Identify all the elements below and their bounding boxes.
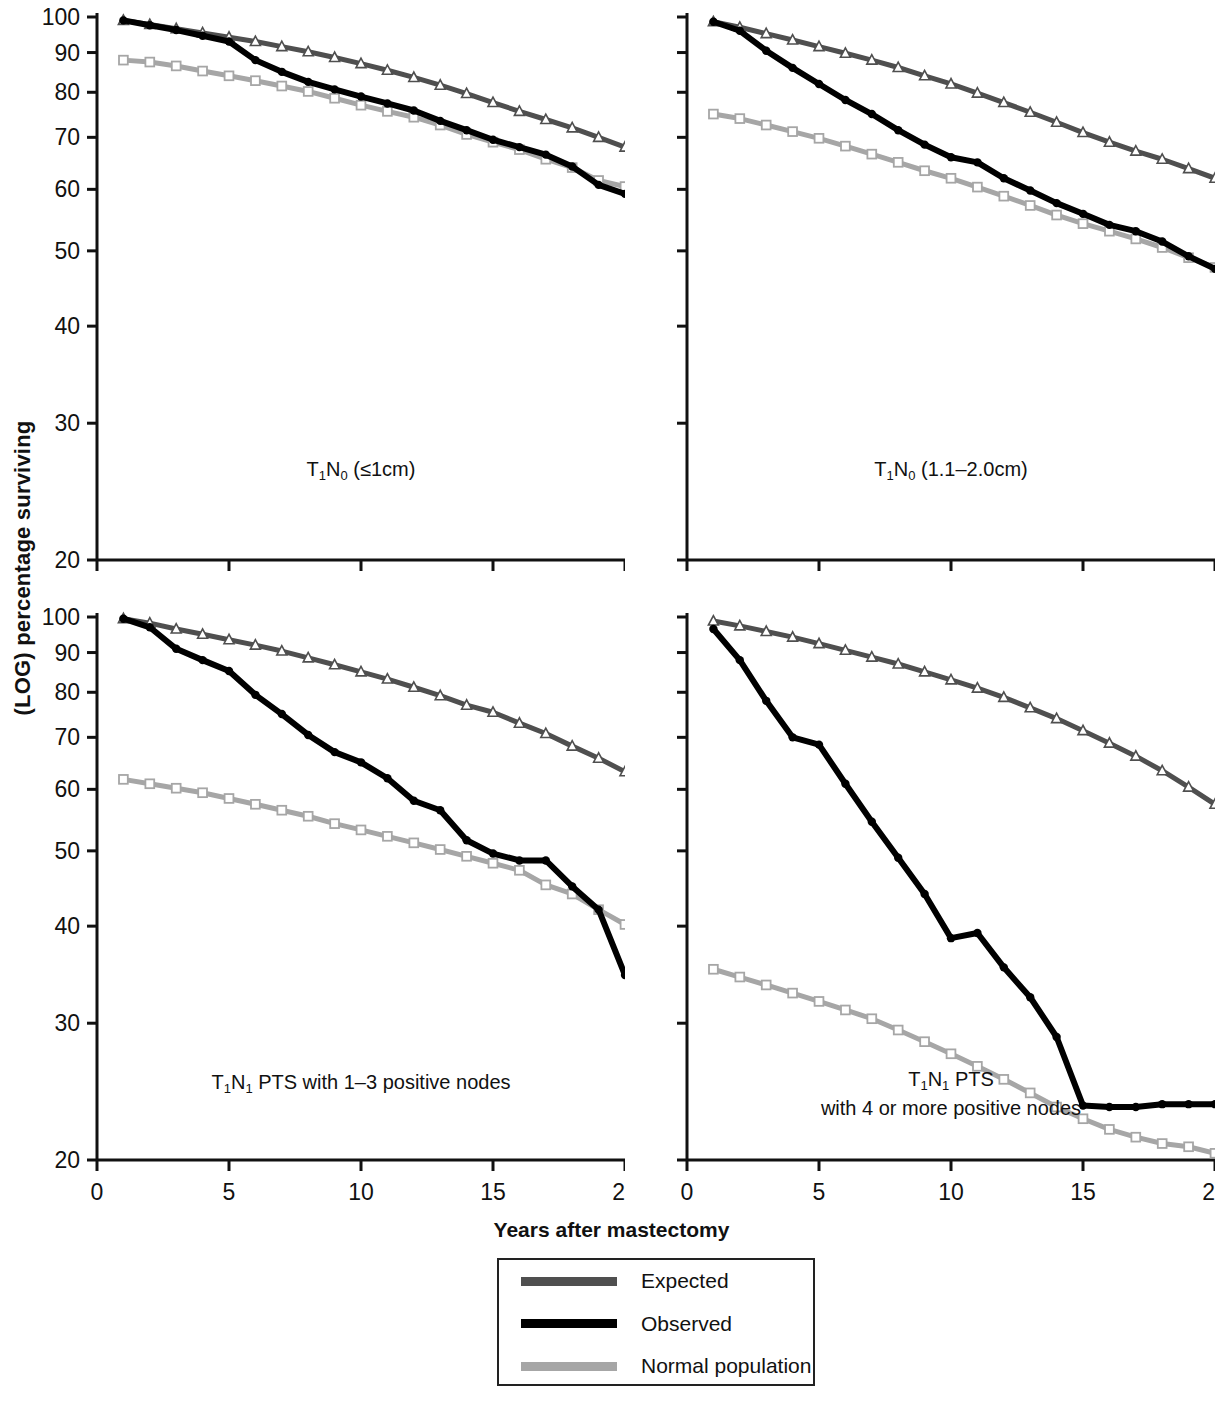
x-tick-label: 15 xyxy=(1070,1179,1096,1200)
x-axis-label: Years after mastectomy xyxy=(0,1218,1223,1242)
x-tick-label: 0 xyxy=(91,1179,104,1200)
panel-bottom-left: 203040506070809010005101520 xyxy=(8,600,625,1200)
panel-top-left: 2030405060708090100 xyxy=(8,0,625,600)
plot-area: 2030405060708090100 xyxy=(8,0,625,600)
y-tick-label: 50 xyxy=(54,238,80,264)
legend-item-expected: Expected xyxy=(499,1260,813,1303)
series-line-normal-population xyxy=(713,114,1215,267)
y-tick-label: 100 xyxy=(42,604,80,630)
y-tick-label: 70 xyxy=(54,724,80,750)
series-markers-observed xyxy=(709,625,1215,1111)
y-tick-label: 30 xyxy=(54,410,80,436)
figure-root: (LOG) percentage surviving Years after m… xyxy=(0,0,1223,1414)
y-tick-label: 30 xyxy=(54,1010,80,1036)
y-tick-label: 50 xyxy=(54,838,80,864)
series-markers-expected xyxy=(118,613,625,776)
legend-label-normal-population: Normal population xyxy=(641,1354,811,1378)
legend-item-normal-population: Normal population xyxy=(499,1345,813,1388)
panel-top-right-title: T1N0 (1.1–2.0cm) xyxy=(657,455,1223,484)
series-markers-expected xyxy=(708,616,1215,809)
series-line-normal-population xyxy=(123,779,625,924)
x-tick-label: 20 xyxy=(1202,1179,1215,1200)
series-markers-normal-population xyxy=(119,775,625,929)
x-tick-label: 0 xyxy=(681,1179,694,1200)
series-line-expected xyxy=(123,20,625,147)
series-line-expected xyxy=(713,621,1215,804)
y-tick-label: 90 xyxy=(54,40,80,66)
x-tick-label: 5 xyxy=(813,1179,826,1200)
y-tick-label: 20 xyxy=(54,547,80,573)
legend-item-observed: Observed xyxy=(499,1303,813,1346)
y-tick-label: 60 xyxy=(54,776,80,802)
plot-area xyxy=(598,0,1215,600)
y-tick-label: 100 xyxy=(42,4,80,30)
panel-top-left-title: T1N0 (≤1cm) xyxy=(67,455,655,484)
legend-swatch-expected xyxy=(521,1277,617,1286)
x-tick-label: 10 xyxy=(348,1179,374,1200)
y-tick-label: 60 xyxy=(54,176,80,202)
y-tick-label: 80 xyxy=(54,679,80,705)
panel-bottom-left-title: T1N1 PTS with 1–3 positive nodes xyxy=(67,1068,655,1097)
y-tick-label: 90 xyxy=(54,640,80,666)
panel-bottom-right-title: T1N1 PTSwith 4 or more positive nodes xyxy=(657,1065,1223,1123)
legend-swatch-normal-population xyxy=(521,1362,617,1371)
y-tick-label: 80 xyxy=(54,79,80,105)
y-tick-label: 20 xyxy=(54,1147,80,1173)
x-tick-label: 10 xyxy=(938,1179,964,1200)
x-tick-label: 15 xyxy=(480,1179,506,1200)
legend-label-observed: Observed xyxy=(641,1312,732,1336)
legend-label-expected: Expected xyxy=(641,1269,729,1293)
y-tick-label: 40 xyxy=(54,913,80,939)
series-markers-normal-population xyxy=(709,110,1215,272)
legend: Expected Observed Normal population xyxy=(497,1258,815,1386)
series-line-expected xyxy=(123,619,625,772)
plot-area: 203040506070809010005101520 xyxy=(8,600,625,1200)
series-line-observed xyxy=(713,629,1215,1107)
panel-top-right xyxy=(598,0,1215,600)
series-markers-observed xyxy=(119,614,625,979)
legend-swatch-observed xyxy=(521,1319,617,1328)
x-tick-label: 5 xyxy=(223,1179,236,1200)
y-tick-label: 70 xyxy=(54,124,80,150)
y-tick-label: 40 xyxy=(54,313,80,339)
